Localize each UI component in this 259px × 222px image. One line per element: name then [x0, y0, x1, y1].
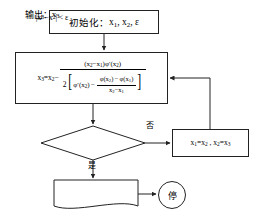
formula-coefficient: 2 [63, 80, 67, 89]
output-label-value: x3 [52, 9, 60, 19]
initialize-vars: x1, x2, ε [109, 17, 139, 28]
edge-swap-feedback-to-formula [170, 78, 210, 129]
node-variable-update[interactable]: x1=x2 , x2=x3 [172, 129, 249, 157]
bracket-right-icon: ] [137, 71, 141, 90]
bracket-left-icon: [ [68, 71, 72, 90]
formula-main-fraction: (x2−x1)φ′(x2) 2[φ′(x2) − φ(x2) − φ(x1) x… [60, 61, 146, 95]
output-document-shape [54, 180, 138, 208]
formula-inner-numerator: φ(x2) − φ(x1) [97, 76, 137, 85]
variable-update-label: x1=x2 , x2=x3 [191, 138, 231, 147]
output-label: 输出：x3 [0, 0, 84, 28]
flowchart-canvas: 初始化：x1, x2, ε x3=x2− (x2−x1)φ′(x2) 2[φ′(… [0, 0, 259, 222]
formula-expression: x3=x2− (x2−x1)φ′(x2) 2[φ′(x2) − φ(x2) − … [16, 61, 167, 95]
formula-inner-denominator: x2−x1 [106, 86, 127, 95]
formula-denominator: 2[φ′(x2) − φ(x2) − φ(x1) x2−x1 ] [60, 70, 146, 95]
node-stop[interactable]: 停 [158, 181, 186, 209]
formula-numerator: (x2−x1)φ′(x2) [81, 61, 124, 69]
stop-label: 停 [168, 189, 177, 202]
node-iteration-formula[interactable]: x3=x2− (x2−x1)φ′(x2) 2[φ′(x2) − φ(x2) − … [15, 52, 168, 104]
decision-diamond-shape [41, 126, 145, 160]
branch-label-no: 否 [146, 119, 154, 130]
output-label-prefix: 输出： [25, 8, 52, 21]
branch-label-yes: 是 [88, 159, 96, 170]
formula-denominator-first-term: φ′(x2) − [73, 81, 95, 89]
formula-inner-fraction: φ(x2) − φ(x1) x2−x1 [97, 76, 137, 94]
formula-lhs: x3=x2− [37, 74, 59, 83]
